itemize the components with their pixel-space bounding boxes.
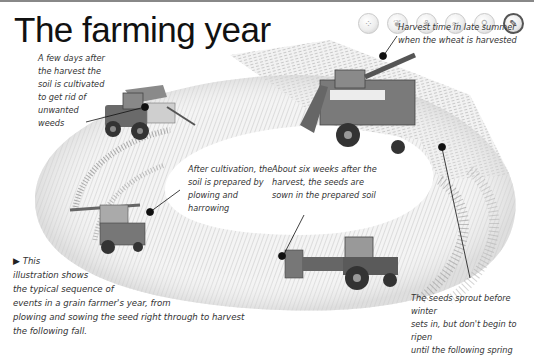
intro-line: This xyxy=(23,256,41,266)
triangle-arrow-icon: ▶ xyxy=(13,256,20,266)
callout-sprouting: The seeds sprout before winter sets in, … xyxy=(411,292,534,357)
intro-line: the typical sequence of xyxy=(13,282,244,296)
callout-harvest: Harvest time in late summer when the whe… xyxy=(398,21,517,47)
intro-caption: ▶ This illustration shows the typical se… xyxy=(13,254,244,338)
callout-plowing: After cultivation, the soil is prepared … xyxy=(188,163,272,215)
callout-sowing: About six weeks after the harvest, the s… xyxy=(272,163,377,202)
intro-line: plowing and sowing the seed right throug… xyxy=(13,310,244,324)
intro-line: the following fall. xyxy=(13,324,244,338)
intro-line: illustration shows xyxy=(13,268,244,282)
callout-cultivation: A few days after the harvest the soil is… xyxy=(38,52,105,130)
intro-line: events in a grain farmer's year, from xyxy=(13,296,244,310)
